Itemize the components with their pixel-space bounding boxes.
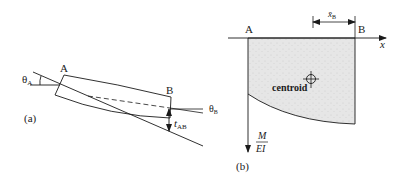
theta-a-label: θA — [22, 73, 32, 87]
point-a-label-b: A — [245, 23, 253, 35]
figure-b-caption: (b) — [236, 160, 249, 173]
beam-top-edge — [64, 75, 171, 97]
x-axis-label: x — [379, 38, 385, 50]
point-a-label: A — [60, 62, 68, 74]
moment-area-diagram: A B θA θB tAB (a) A B x — [0, 0, 406, 183]
x-bar-label: x̄B — [327, 9, 336, 20]
figure-a-deflected-beam: A B θA θB tAB (a) — [22, 62, 218, 146]
m-ei-label-numerator: M — [257, 130, 267, 141]
point-b-label: B — [166, 84, 173, 96]
m-ei-area-region — [248, 38, 355, 124]
point-b-label-b: B — [358, 23, 365, 35]
beam-right-end — [170, 97, 171, 118]
figure-b-moment-diagram: A B x x̄B centroid M EI (b) — [228, 9, 386, 173]
theta-a-arc — [40, 76, 41, 85]
centroid-label: centroid — [272, 82, 308, 93]
m-ei-label-denominator: EI — [255, 143, 266, 154]
figure-a-caption: (a) — [24, 112, 37, 125]
theta-b-label: θB — [209, 103, 218, 115]
dashed-chord-line — [88, 96, 170, 108]
t-ab-label: tAB — [174, 117, 187, 131]
